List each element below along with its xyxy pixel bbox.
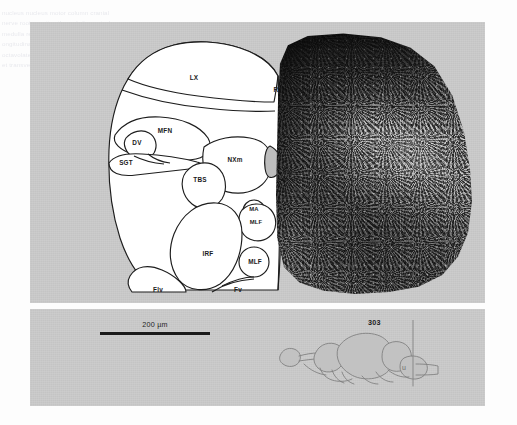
label-mlf-upper: MLF (250, 219, 263, 225)
label-sgt: SGT (119, 159, 133, 166)
label-tbs: TBS (193, 176, 207, 183)
label-ma: MA (249, 206, 259, 212)
micrograph-tissue (276, 32, 474, 296)
main-image-panel: LX RV MFN DV SGT NXm TBS MA MLF IRF MLF … (30, 22, 485, 303)
label-lx: LX (190, 74, 199, 81)
label-dv: DV (132, 139, 142, 146)
scale-bar-label: 200 µm (100, 320, 210, 329)
lateral-sub-label: u (402, 364, 406, 371)
figure-root: LX RV MFN DV SGT NXm TBS MA MLF IRF MLF … (0, 0, 517, 425)
label-mfn: MFN (158, 127, 173, 134)
schematic-line-drawing: LX RV MFN DV SGT NXm TBS MA MLF IRF MLF … (82, 34, 302, 296)
photomicrograph (276, 32, 474, 296)
label-fv: Fv (234, 286, 242, 293)
scale-bar-line (100, 332, 210, 335)
lateral-brain-diagram: u (276, 320, 440, 388)
region-tbs (182, 163, 225, 208)
lateral-olfactory-bulb (280, 348, 301, 366)
label-irf: IRF (203, 250, 214, 257)
label-mlf-lower: MLF (248, 258, 262, 265)
label-flv: Flv (153, 286, 163, 293)
scale-bar: 200 µm (100, 320, 210, 335)
micrograph-edge-shading (276, 32, 474, 296)
label-nxm: NXm (227, 156, 242, 163)
